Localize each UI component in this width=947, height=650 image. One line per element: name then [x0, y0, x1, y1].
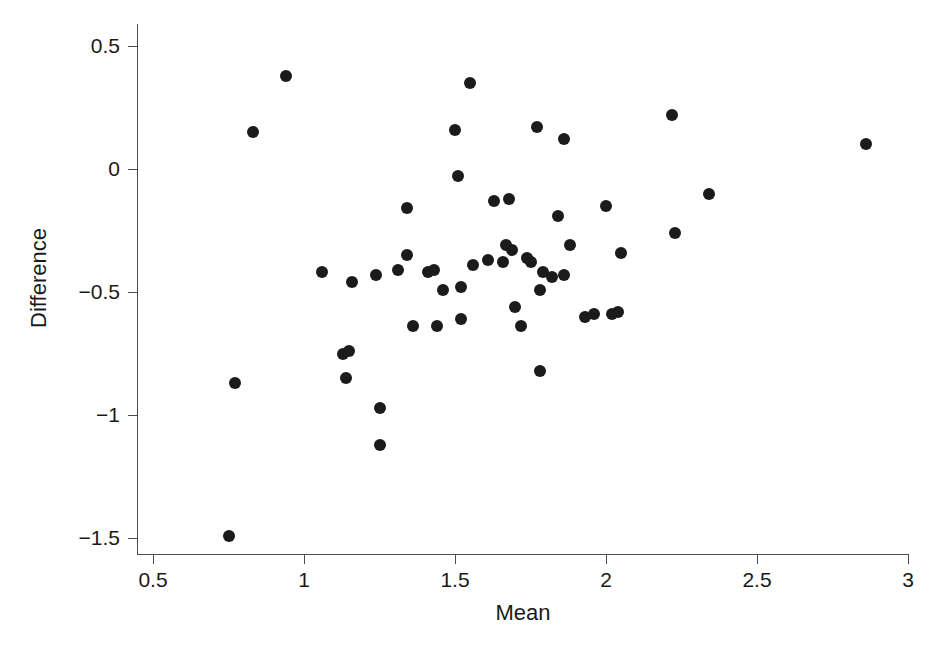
data-point: [401, 249, 413, 261]
data-point: [374, 402, 386, 414]
data-point: [579, 311, 591, 323]
data-point: [558, 269, 570, 281]
y-axis-tick-labels: 0.50−0.5−1−1.5: [0, 0, 120, 650]
y-tick-3: [128, 415, 137, 416]
x-axis-line: [137, 554, 909, 555]
scatter-plot-figure: 0.511.522.53 0.50−0.5−1−1.5 Mean Differe…: [0, 0, 947, 650]
data-point: [223, 530, 235, 542]
data-point: [552, 210, 564, 222]
data-point: [247, 126, 259, 138]
data-point: [531, 121, 543, 133]
x-tick-label-2: 1.5: [440, 568, 469, 592]
y-tick-label-3: −1: [96, 403, 120, 427]
x-tick-label-3: 2: [600, 568, 612, 592]
data-point: [564, 239, 576, 251]
y-axis-label: Difference: [26, 178, 52, 378]
y-tick-label-0: 0.5: [91, 34, 120, 58]
data-point: [229, 377, 241, 389]
data-point: [703, 188, 715, 200]
x-tick-2: [455, 555, 456, 564]
y-tick-1: [128, 169, 137, 170]
y-tick-label-4: −1.5: [79, 526, 120, 550]
data-point: [280, 70, 292, 82]
x-tick-5: [908, 555, 909, 564]
y-tick-label-2: −0.5: [79, 280, 120, 304]
data-point: [392, 264, 404, 276]
data-point: [374, 439, 386, 451]
data-point: [534, 365, 546, 377]
y-axis-line: [137, 24, 138, 555]
data-point: [612, 306, 624, 318]
data-point: [525, 256, 537, 268]
x-axis-label: Mean: [137, 600, 909, 626]
x-tick-label-1: 1: [298, 568, 310, 592]
x-tick-label-5: 3: [902, 568, 914, 592]
data-point: [503, 193, 515, 205]
data-point: [455, 313, 467, 325]
data-point: [546, 271, 558, 283]
x-tick-label-4: 2.5: [742, 568, 771, 592]
plot-area: [137, 24, 909, 554]
x-tick-4: [757, 555, 758, 564]
y-tick-2: [128, 292, 137, 293]
y-tick-0: [128, 46, 137, 47]
y-tick-label-1: 0: [108, 157, 120, 181]
x-tick-0: [153, 555, 154, 564]
data-point: [464, 77, 476, 89]
x-tick-3: [606, 555, 607, 564]
data-point: [449, 124, 461, 136]
data-point: [534, 284, 546, 296]
y-tick-4: [128, 538, 137, 539]
data-point: [615, 247, 627, 259]
data-point: [467, 259, 479, 271]
x-tick-1: [304, 555, 305, 564]
data-point: [600, 200, 612, 212]
data-point: [455, 281, 467, 293]
x-tick-label-0: 0.5: [138, 568, 167, 592]
data-point: [401, 202, 413, 214]
data-point: [437, 284, 449, 296]
